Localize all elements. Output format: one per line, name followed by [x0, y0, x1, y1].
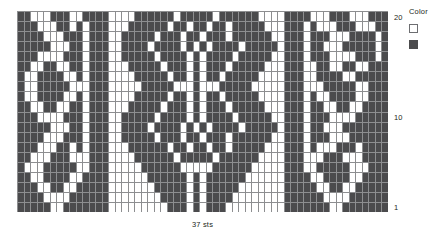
row-label-20: 20 — [394, 14, 403, 22]
chart-page: 20 10 1 37 sts Color — [0, 0, 448, 237]
chart-legend: Color — [409, 8, 448, 56]
knitting-chart-grid — [17, 11, 388, 212]
row-label-1: 1 — [394, 204, 398, 212]
legend-item-contrast-color — [409, 40, 448, 49]
stitch-count-caption: 37 sts — [0, 220, 405, 229]
chart-cells-canvas — [17, 11, 388, 212]
legend-title: Color — [409, 8, 448, 16]
legend-swatch-main-color — [409, 24, 418, 33]
legend-swatch-contrast-color — [409, 40, 418, 49]
legend-item-main-color — [409, 24, 448, 33]
row-label-10: 10 — [394, 114, 403, 122]
